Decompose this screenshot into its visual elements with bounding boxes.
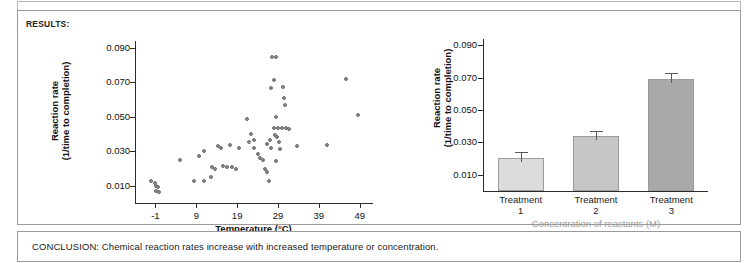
scatter-x-tick	[155, 203, 156, 208]
scatter-point	[157, 190, 161, 194]
scatter-y-ticks: 0.0100.0300.0500.0700.090	[80, 25, 130, 221]
results-panel: RESULTS: Reaction rate (1/time to comple…	[17, 10, 741, 225]
bar	[498, 158, 544, 191]
scatter-point	[283, 103, 287, 107]
scatter-point	[274, 115, 278, 119]
scatter-x-tick	[360, 203, 361, 208]
scatter-x-tick-label: 29	[263, 210, 293, 221]
error-bar	[671, 73, 672, 83]
scatter-x-tick	[237, 203, 238, 208]
scatter-point	[269, 146, 273, 150]
scatter-point	[275, 135, 279, 139]
error-bar-cap	[515, 152, 528, 153]
scatter-point	[265, 170, 269, 174]
scatter-point	[192, 179, 196, 183]
scatter-x-tick	[278, 203, 279, 208]
figure-page: RESULTS: Reaction rate (1/time to comple…	[0, 0, 748, 263]
scatter-point	[281, 85, 285, 89]
bar-category-label-name: Treatment	[560, 194, 632, 205]
scatter-x-tick-label: 49	[345, 210, 375, 221]
scatter-point	[344, 77, 348, 81]
scatter-y-tick	[130, 151, 135, 152]
scatter-point	[247, 140, 251, 144]
scatter-point	[202, 149, 206, 153]
error-bar	[521, 152, 522, 162]
scatter-point	[249, 132, 253, 136]
bar-y-ticks: 0.0100.0300.0500.0700.090	[429, 25, 477, 225]
scatter-point	[202, 179, 206, 183]
bar-category-label-name: Treatment	[485, 194, 557, 205]
conclusion-panel: CONCLUSION: Chemical reaction rates incr…	[17, 231, 741, 262]
scatter-y-tick-label: 0.050	[90, 112, 130, 122]
bar-y-tick	[478, 142, 483, 143]
scatter-point	[325, 143, 329, 147]
scatter-point	[228, 143, 232, 147]
scatter-x-tick	[196, 203, 197, 208]
top-divider-strip	[17, 1, 741, 10]
scatter-point	[237, 146, 241, 150]
scatter-y-axis-label-line1: Reaction rate	[49, 81, 60, 141]
bar-y-tick-label: 0.010	[435, 170, 477, 180]
scatter-y-axis-label: Reaction rate (1/time to completion)	[49, 46, 71, 176]
scatter-point	[178, 158, 182, 162]
scatter-point	[272, 78, 276, 82]
error-bar	[596, 131, 597, 140]
bar-y-tick-label: 0.090	[435, 40, 477, 50]
scatter-point	[274, 55, 278, 59]
scatter-point	[213, 167, 217, 171]
bar-y-tick	[478, 175, 483, 176]
scatter-point	[197, 154, 201, 158]
scatter-point	[269, 86, 273, 90]
scatter-x-tick-label: -1	[140, 210, 170, 221]
bar-y-tick-label: 0.050	[435, 105, 477, 115]
scatter-y-tick	[130, 82, 135, 83]
scatter-point	[265, 142, 269, 146]
scatter-y-axis-label-line2: (1/time to completion)	[60, 62, 71, 161]
error-bar-cap	[665, 73, 678, 74]
scatter-y-tick	[130, 48, 135, 49]
scatter-x-axis-line	[135, 203, 373, 204]
scatter-x-tick-label: 9	[181, 210, 211, 221]
scatter-point	[261, 158, 265, 162]
scatter-point	[225, 165, 229, 169]
scatter-point	[149, 179, 153, 183]
scatter-y-tick-label: 0.070	[90, 77, 130, 87]
scatter-x-tick	[319, 203, 320, 208]
scatter-point	[219, 146, 223, 150]
bar-y-tick-label: 0.070	[435, 73, 477, 83]
scatter-point	[252, 146, 256, 150]
bar-y-tick	[478, 110, 483, 111]
bar-y-tick	[478, 45, 483, 46]
scatter-point	[274, 159, 278, 163]
scatter-point	[267, 179, 271, 183]
scatter-point	[277, 140, 281, 144]
bar-y-tick-label: 0.030	[435, 137, 477, 147]
bar-category-label-number: 1	[485, 205, 557, 216]
scatter-y-tick-label: 0.090	[90, 43, 130, 53]
scatter-point	[252, 138, 256, 142]
conclusion-text: CONCLUSION: Chemical reaction rates incr…	[32, 241, 438, 252]
bar	[573, 136, 619, 191]
scatter-y-tick-label: 0.010	[90, 181, 130, 191]
scatter-point	[278, 147, 282, 151]
bar-chart: Reaction rate (1/time to completion) 0.0…	[423, 25, 743, 225]
scatter-y-tick	[130, 117, 135, 118]
scatter-point	[245, 117, 249, 121]
bar-y-tick	[478, 78, 483, 79]
scatter-point	[234, 167, 238, 171]
bar-category-label-name: Treatment	[635, 194, 707, 205]
scatter-y-tick	[130, 186, 135, 187]
bar-x-axis-label: Concentration of reactants (M)	[483, 218, 709, 229]
scatter-x-tick-label: 39	[304, 210, 334, 221]
scatter-point	[209, 175, 213, 179]
error-bar-cap	[590, 131, 603, 132]
scatter-points-area	[135, 41, 372, 203]
bar-x-axis-line	[483, 191, 708, 192]
bar-category-label: Treatment2	[560, 194, 632, 216]
scatter-chart: Reaction rate (1/time to completion) 0.0…	[40, 25, 400, 221]
bar-category-label-number: 3	[635, 205, 707, 216]
bar	[648, 79, 694, 191]
scatter-point	[287, 127, 291, 131]
bar-category-label: Treatment3	[635, 194, 707, 216]
bar-category-label-number: 2	[560, 205, 632, 216]
